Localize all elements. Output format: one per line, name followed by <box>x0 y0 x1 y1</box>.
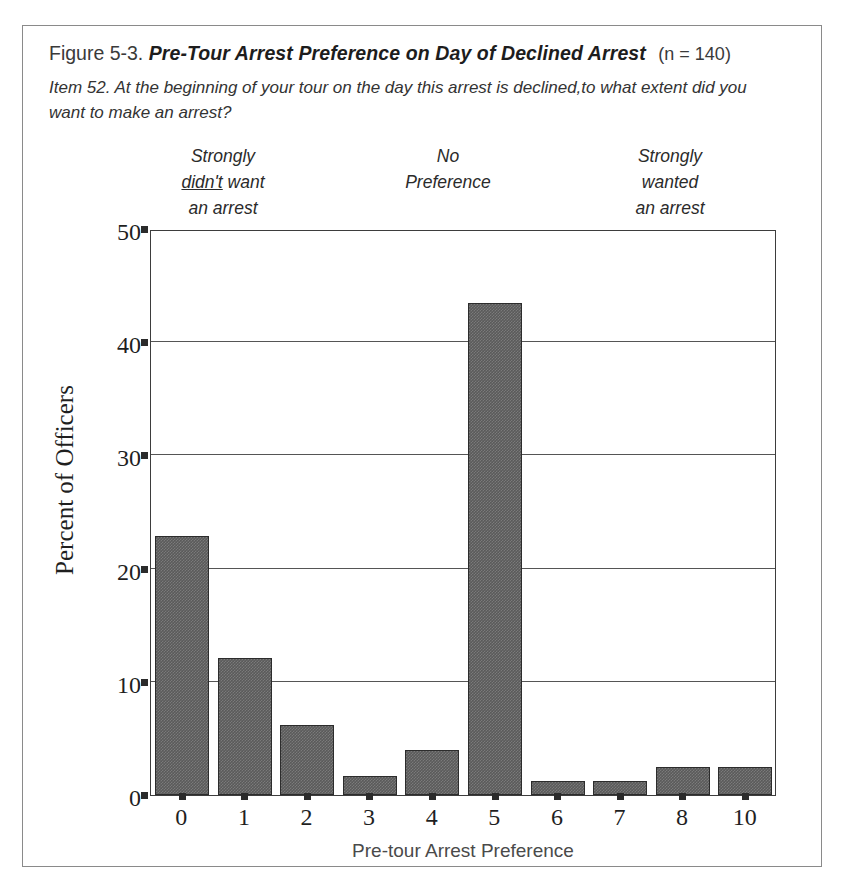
chart-area: Percent of Officers 01020304050 01234567… <box>23 26 822 867</box>
y-axis-title: Percent of Officers <box>51 320 79 640</box>
y-tick-mark <box>141 226 148 233</box>
x-tick-mark <box>679 793 686 800</box>
bar-slot <box>401 231 464 795</box>
x-tick-mark <box>304 793 311 800</box>
y-tick-label: 40 <box>95 332 141 359</box>
y-tick-label: 20 <box>95 559 141 586</box>
x-tick-label: 0 <box>150 804 213 831</box>
bar <box>280 725 334 795</box>
x-tick-mark <box>366 793 373 800</box>
y-tick-label: 10 <box>95 672 141 699</box>
x-tick-label: 8 <box>651 804 714 831</box>
x-tick-label: 4 <box>400 804 463 831</box>
bar <box>718 767 772 795</box>
x-tick-label: 2 <box>275 804 338 831</box>
y-tick-mark <box>141 792 148 799</box>
bar-slot <box>589 231 652 795</box>
bar <box>155 536 209 795</box>
bar <box>405 750 459 795</box>
x-tick-mark <box>429 793 436 800</box>
y-tick-mark <box>141 679 148 686</box>
bar-slot <box>714 231 777 795</box>
x-tick-label: 10 <box>713 804 776 831</box>
x-tick-label: 7 <box>588 804 651 831</box>
bar-slot <box>652 231 715 795</box>
y-axis-tick-labels: 01020304050 <box>89 230 141 796</box>
bar <box>218 658 272 795</box>
x-tick-mark <box>492 793 499 800</box>
y-tick-mark <box>141 339 148 346</box>
bar-slot <box>527 231 590 795</box>
bar <box>468 303 522 795</box>
x-tick-mark <box>179 793 186 800</box>
x-axis-tick-labels: 01234567810 <box>150 804 776 838</box>
x-tick-mark <box>617 793 624 800</box>
figure-card: Figure 5-3. Pre-Tour Arrest Preference o… <box>22 25 822 867</box>
bar-slot <box>464 231 527 795</box>
y-tick-mark <box>141 452 148 459</box>
y-tick-mark <box>141 566 148 573</box>
x-tick-mark <box>742 793 749 800</box>
x-tick-mark <box>241 793 248 800</box>
bar-slot <box>151 231 214 795</box>
plot-frame <box>150 230 776 796</box>
x-tick-label: 1 <box>213 804 276 831</box>
bar <box>656 767 710 795</box>
bar-series <box>151 231 775 795</box>
x-tick-label: 5 <box>463 804 526 831</box>
y-tick-label: 50 <box>95 219 141 246</box>
x-tick-mark <box>554 793 561 800</box>
y-tick-label: 30 <box>95 445 141 472</box>
y-tick-label: 0 <box>95 785 141 812</box>
x-axis-title: Pre-tour Arrest Preference <box>150 840 776 862</box>
bar-slot <box>276 231 339 795</box>
x-tick-label: 6 <box>526 804 589 831</box>
bar-slot <box>339 231 402 795</box>
x-tick-label: 3 <box>338 804 401 831</box>
bar-slot <box>214 231 277 795</box>
